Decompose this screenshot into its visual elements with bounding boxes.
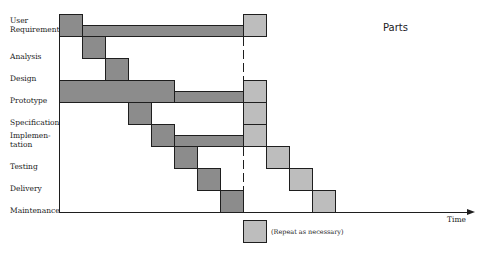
label-line: Requirements bbox=[10, 26, 63, 35]
row-label-analysis: Analysis bbox=[10, 53, 41, 62]
y-axis-line bbox=[59, 14, 60, 213]
delivery-repeat-box bbox=[289, 168, 313, 191]
user-requirements-continuation-bar bbox=[82, 25, 244, 37]
row-label-prototype: Prototype bbox=[10, 97, 47, 106]
repeat-boundary-dash bbox=[243, 160, 244, 169]
delivery-box bbox=[197, 168, 221, 191]
specification-box bbox=[128, 102, 152, 125]
time-axis-label: Time bbox=[447, 215, 466, 224]
repeat-boundary-dash bbox=[243, 50, 244, 59]
row-label-specification: Specification bbox=[10, 119, 59, 128]
implementation-box bbox=[151, 124, 175, 147]
design-box bbox=[105, 58, 129, 81]
row-label-design: Design bbox=[10, 75, 36, 84]
testing-box bbox=[174, 146, 198, 169]
prototype-box bbox=[59, 80, 175, 103]
repeat-boundary-dash bbox=[243, 147, 244, 156]
row-label-delivery: Delivery bbox=[10, 185, 42, 194]
row-label-implementation: Implemen- tation bbox=[10, 132, 51, 149]
prototype-repeat-box bbox=[243, 80, 267, 103]
phase-timeline-diagram: Parts User Requirements Analysis Design … bbox=[0, 0, 485, 253]
prototype-continuation-bar bbox=[173, 91, 244, 103]
repeat-boundary-dash bbox=[243, 63, 244, 72]
maintenance-box bbox=[220, 190, 244, 213]
repeat-boundary-dash bbox=[243, 186, 244, 190]
row-label-testing: Testing bbox=[10, 163, 38, 172]
analysis-box bbox=[82, 36, 106, 59]
time-axis-line bbox=[59, 212, 469, 213]
testing-repeat-box bbox=[266, 146, 290, 169]
maintenance-repeat-box bbox=[312, 190, 336, 213]
time-arrow-icon bbox=[467, 209, 475, 215]
specification-repeat-box bbox=[243, 102, 267, 125]
diagram-title: Parts bbox=[383, 22, 408, 33]
user-requirements-box bbox=[59, 14, 83, 37]
row-label-user-requirements: User Requirements bbox=[10, 17, 63, 34]
legend-label: (Repeat as necessary) bbox=[271, 228, 344, 236]
repeat-boundary-dash bbox=[243, 76, 244, 80]
repeat-boundary-dash bbox=[243, 173, 244, 182]
legend-swatch bbox=[243, 220, 267, 243]
repeat-boundary-dash bbox=[243, 37, 244, 46]
user-requirements-repeat-box bbox=[243, 14, 267, 37]
label-line: tation bbox=[10, 141, 51, 150]
implementation-repeat-box bbox=[243, 124, 267, 147]
row-label-maintenance: Maintenance bbox=[10, 207, 60, 216]
